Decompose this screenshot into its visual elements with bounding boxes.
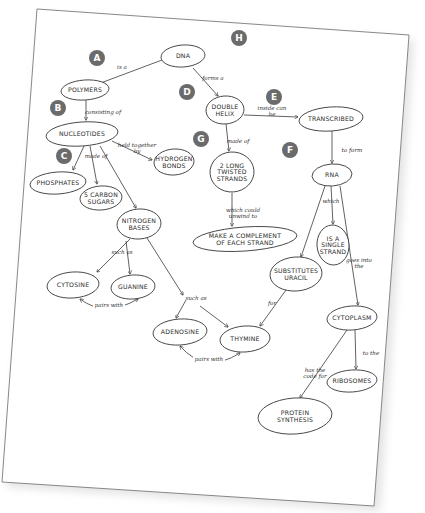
edge-label: has thecode for [303,367,327,380]
node-label: RIBOSOMES [333,377,372,384]
badge-e: E [266,89,282,105]
node-label: ADENOSINE [161,328,200,335]
node-label: GUANINE [118,283,148,290]
edge-label: such as [185,295,206,301]
node-label: THYMINE [229,335,259,342]
edge-label: forms a [201,75,223,82]
badge-letter: C [61,151,68,161]
badge-c: C [56,148,72,164]
node-label: RNA [325,171,339,178]
badge-g: G [193,131,209,147]
node-label: HELIX [215,110,235,117]
badge-h: H [231,30,247,46]
concept-map-canvas: is aconsisting ofheld togetherbymade off… [0,0,425,513]
badge-letter: H [235,33,243,43]
edge-label: which [323,198,340,204]
node-label: SYNTHESIS [277,416,313,423]
edge-label: consisting of [85,109,122,116]
badge-letter: G [197,134,204,144]
node-label: BONDS [162,162,185,169]
edge-label: which couldunwind to [226,207,261,219]
badge-letter: B [55,103,62,113]
node-label: NUCLEOTIDES [59,130,105,137]
edge-label: such as [111,249,132,255]
node-label: URACIL [284,274,308,281]
node-label: PHOSPHATES [37,179,80,186]
edge-label: is a [117,64,127,70]
pairs-with-label: pairs with [195,356,224,363]
badge-letter: F [287,145,293,155]
badge-a: A [89,50,105,66]
badge-f: F [282,142,298,158]
badge-letter: D [183,87,190,97]
node-label: SUGARS [88,198,115,205]
node-label: POLYMERS [68,86,102,93]
edge-label: for [267,300,276,307]
node-label: TRANSCRIBED [307,115,354,122]
pairs-with-label: pairs with [95,302,124,309]
node-label: BASES [128,224,149,231]
badge-d: D [179,84,195,100]
node-label: STRANDS [217,175,248,182]
node-label: OF EACH STRAND [216,239,274,246]
edge-label: made of [227,138,251,145]
badge-b: B [50,100,66,116]
node-label: DNA [176,52,191,59]
badge-letter: A [94,53,101,63]
edge-label: to the [363,350,380,356]
node-label: CYTOPLASM [332,314,371,321]
node-label: CYTOSINE [57,281,90,288]
node-label: STRAND [320,248,347,255]
edge-label: to form [342,147,363,154]
badge-letter: E [271,92,277,102]
